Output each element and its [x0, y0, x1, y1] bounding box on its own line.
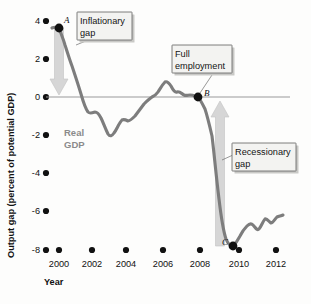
series-label-real-gdp-line2: GDP — [64, 139, 85, 150]
x-tick-label-2012: 2012 — [266, 259, 286, 269]
x-tick-dot-2008 — [197, 247, 203, 253]
x-tick-label-2004: 2004 — [116, 259, 136, 269]
y-tick-dot-minus6 — [43, 208, 49, 214]
y-tick-label-2: 2 — [35, 54, 40, 64]
point-label-c: C — [222, 237, 229, 247]
y-tick-dot-minus4 — [43, 170, 49, 176]
y-tick-dot-minus2 — [43, 132, 49, 138]
callout-inflationary-gap: Inflationary gap — [76, 12, 135, 45]
marker-point-c — [229, 242, 238, 251]
y-tick-dot-2 — [43, 56, 49, 62]
callout-full-employment-line2: employment — [175, 61, 225, 71]
y-tick-label-minus2: -2 — [32, 130, 40, 140]
x-tick-label-2000: 2000 — [49, 259, 69, 269]
marker-point-b — [194, 93, 203, 102]
y-tick-dot-4 — [43, 18, 49, 24]
y-tick-label-minus4: -4 — [32, 168, 40, 178]
point-label-a: A — [63, 15, 70, 25]
y-tick-label-0: 0 — [35, 92, 40, 102]
callout-recessionary-gap: Recessionary gap — [222, 143, 299, 174]
output-gap-chart: Output gap (percent of potential GDP) 4 … — [0, 0, 311, 304]
x-axis-title: Year — [44, 277, 64, 287]
x-tick-dot-2012 — [273, 247, 279, 253]
marker-point-a — [55, 24, 64, 33]
y-tick-label-minus8: -8 — [32, 245, 40, 255]
callout-inflationary-gap-line1: Inflationary — [80, 16, 125, 26]
y-tick-label-minus6: -6 — [32, 206, 40, 216]
x-tick-dot-2006 — [160, 247, 166, 253]
callout-recessionary-gap-line1: Recessionary — [235, 147, 291, 157]
series-label-real-gdp-line1: Real — [64, 127, 84, 138]
x-tick-dot-2004 — [123, 247, 129, 253]
x-tick-dot-2000 — [56, 247, 62, 253]
point-label-b: B — [204, 88, 210, 98]
x-tick-label-2006: 2006 — [153, 259, 173, 269]
callout-full-employment-line1: Full — [175, 49, 190, 59]
x-tick-label-2008: 2008 — [190, 259, 210, 269]
y-tick-label-4: 4 — [35, 16, 40, 26]
y-tick-dot-minus8 — [43, 247, 49, 253]
x-tick-label-2002: 2002 — [82, 259, 102, 269]
callout-inflationary-gap-line2: gap — [80, 28, 95, 38]
callout-recessionary-gap-line2: gap — [235, 159, 250, 169]
y-axis-title: Output gap (percent of potential GDP) — [6, 93, 16, 258]
x-tick-dot-2002 — [89, 247, 95, 253]
x-tick-label-2010: 2010 — [229, 259, 249, 269]
